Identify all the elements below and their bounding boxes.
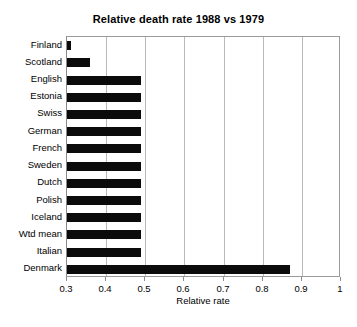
x-axis-tick-label: 1 <box>337 283 342 294</box>
tick-mark <box>66 277 67 281</box>
y-axis-label: Swiss <box>0 108 62 118</box>
bar[interactable] <box>67 196 141 205</box>
chart-title: Relative death rate 1988 vs 1979 <box>0 13 357 25</box>
y-axis-label: Scotland <box>0 57 62 67</box>
y-axis-label: Wtd mean <box>0 229 62 239</box>
tick-mark <box>340 277 341 281</box>
tick-mark <box>105 277 106 281</box>
y-axis-label: Iceland <box>0 212 62 222</box>
bar-row <box>67 140 339 157</box>
x-axis-tick-label: 0.7 <box>216 283 229 294</box>
bar-row <box>67 175 339 192</box>
bar[interactable] <box>67 265 290 274</box>
bar[interactable] <box>67 110 141 119</box>
bar-row <box>67 71 339 88</box>
plot-area <box>66 36 340 277</box>
tick-mark <box>301 277 302 281</box>
x-axis-tick-label: 0.8 <box>255 283 268 294</box>
bar-row <box>67 244 339 261</box>
bar-row <box>67 106 339 123</box>
tick-mark <box>183 277 184 281</box>
bar[interactable] <box>67 162 141 171</box>
bar-row <box>67 226 339 243</box>
bar[interactable] <box>67 144 141 153</box>
y-axis-label: Italian <box>0 246 62 256</box>
bar[interactable] <box>67 248 141 257</box>
bar[interactable] <box>67 58 90 67</box>
y-axis-label: English <box>0 74 62 84</box>
y-axis-labels: FinlandScotlandEnglishEstoniaSwissGerman… <box>0 36 62 277</box>
y-axis-label: Sweden <box>0 160 62 170</box>
x-axis-tick-label: 0.6 <box>176 283 189 294</box>
y-axis-label: Dutch <box>0 177 62 187</box>
y-axis-label: Denmark <box>0 263 62 273</box>
bar[interactable] <box>67 76 141 85</box>
bar-row <box>67 123 339 140</box>
bar-series <box>67 37 339 276</box>
x-axis-tick-label: 0.9 <box>294 283 307 294</box>
x-axis-tick-label: 0.5 <box>137 283 150 294</box>
x-axis-title: Relative rate <box>66 295 340 306</box>
chart-container: Relative death rate 1988 vs 1979 Finland… <box>0 0 357 327</box>
x-axis-tick-label: 0.3 <box>59 283 72 294</box>
bar[interactable] <box>67 179 141 188</box>
bar-row <box>67 261 339 278</box>
bar-row <box>67 89 339 106</box>
bar[interactable] <box>67 213 141 222</box>
tick-mark <box>144 277 145 281</box>
bar-row <box>67 192 339 209</box>
y-axis-label: French <box>0 143 62 153</box>
tick-mark <box>223 277 224 281</box>
y-axis-label: Estonia <box>0 91 62 101</box>
bar-row <box>67 209 339 226</box>
x-axis-tick-label: 0.4 <box>98 283 111 294</box>
bar[interactable] <box>67 41 71 50</box>
bar[interactable] <box>67 230 141 239</box>
y-axis-label: Finland <box>0 40 62 50</box>
bar-row <box>67 158 339 175</box>
y-axis-label: German <box>0 126 62 136</box>
bar[interactable] <box>67 93 141 102</box>
bar[interactable] <box>67 127 141 136</box>
tick-mark <box>262 277 263 281</box>
y-axis-label: Polish <box>0 195 62 205</box>
bar-row <box>67 37 339 54</box>
bar-row <box>67 54 339 71</box>
